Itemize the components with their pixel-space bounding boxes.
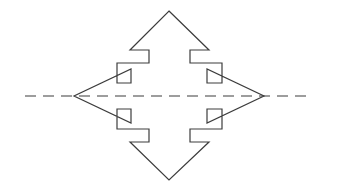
line-drawing-svg	[0, 0, 338, 193]
figure-canvas	[0, 0, 338, 193]
